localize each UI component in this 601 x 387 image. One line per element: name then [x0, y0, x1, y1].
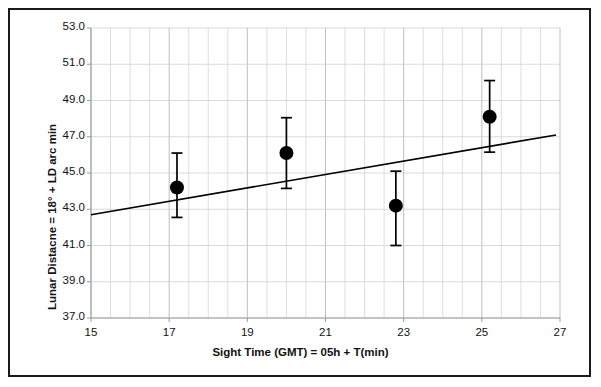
gridlines — [91, 28, 560, 318]
x-tick-label: 21 — [317, 326, 335, 338]
x-tick-label: 23 — [395, 326, 413, 338]
y-tick-label: 49.0 — [53, 93, 85, 105]
y-tick-marks — [87, 28, 91, 318]
y-tick-label: 53.0 — [53, 20, 85, 32]
y-tick-label: 37.0 — [53, 310, 85, 322]
trendline — [91, 135, 556, 215]
y-tick-label: 51.0 — [53, 56, 85, 68]
y-axis-title: Lunar Distacne = 18° + LD arc min — [46, 124, 58, 310]
x-tick-label: 17 — [160, 326, 178, 338]
x-tick-label: 19 — [238, 326, 256, 338]
data-points — [170, 110, 497, 213]
x-axis-title: Sight Time (GMT) = 05h + T(min) — [0, 346, 601, 358]
error-bars — [171, 81, 495, 246]
x-tick-label: 27 — [551, 326, 569, 338]
x-tick-label: 15 — [82, 326, 100, 338]
x-tick-marks — [91, 318, 560, 322]
x-tick-label: 25 — [473, 326, 491, 338]
